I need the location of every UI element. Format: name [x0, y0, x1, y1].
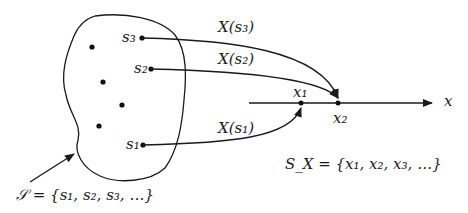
point-x1	[299, 101, 304, 106]
label-X-s2: X(s₂)	[218, 52, 254, 67]
range-set-label: S_X = {x₁, x₂, x₃, …}	[285, 157, 442, 172]
sample-point	[100, 79, 105, 84]
label-x2: x₂	[333, 111, 347, 126]
label-s1: s₁	[126, 137, 140, 152]
mapping-arrow-s3	[142, 38, 338, 98]
sample-space-pointer-arrow	[30, 154, 74, 182]
mapping-arrow-s2	[151, 69, 338, 98]
random-variable-diagram: s₃ s₂ s₁ X(s₃) X(s₂) X(s₁) x₁ x₂ x 𝒮 = {…	[0, 0, 468, 213]
sample-point	[119, 102, 124, 107]
sample-point	[96, 123, 101, 128]
label-s2: s₂	[134, 61, 148, 76]
label-X-s1: X(s₁)	[218, 121, 254, 136]
sample-point	[89, 44, 94, 49]
point-x2	[336, 101, 341, 106]
label-X-s3: X(s₃)	[218, 20, 254, 35]
label-s3: s₃	[122, 30, 136, 45]
sample-space-set-label: 𝒮 = {s₁, s₂, s₃, …}	[16, 188, 154, 203]
axis-label-x: x	[444, 94, 452, 109]
label-x1: x₁	[293, 85, 307, 100]
